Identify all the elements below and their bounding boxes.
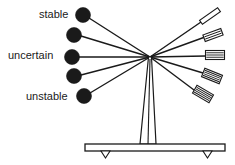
weight-disc [67,28,82,43]
weight-disc [65,50,80,65]
spoke-right [150,22,201,57]
spoke-left [90,57,150,93]
foot-left [101,151,110,158]
paddle-vane [206,51,225,60]
spoke-right [150,56,206,57]
paddle-vane [193,85,214,102]
paddle-vane [200,8,221,25]
paddle-body [200,8,221,25]
arm-uncertain [65,50,225,65]
paddle-vane [202,68,223,83]
spoke-right [150,37,205,57]
diagram-canvas: stable uncertain unstable [0,0,235,165]
spoke-right [150,57,203,73]
foot-right [203,151,212,158]
support-mast-group [140,57,156,144]
paddle-body [203,28,223,41]
weight-disc [76,8,91,23]
paddle-vane [203,28,223,41]
spoke-right [150,57,194,90]
paddle-body [193,85,214,102]
weight-disc [67,69,82,84]
label-stable: stable [39,9,68,20]
label-unstable: unstable [26,91,68,102]
spoke-left [89,18,150,57]
weight-disc [77,89,92,104]
arm-upper-mid [67,28,224,58]
spoke-left [81,57,150,75]
base-group [85,144,225,158]
spoke-left [81,36,150,57]
base-plate [85,144,225,151]
arm-stable [76,8,221,58]
balance-diagram [0,0,235,165]
arms-group [65,8,225,104]
label-uncertain: uncertain [8,50,53,61]
